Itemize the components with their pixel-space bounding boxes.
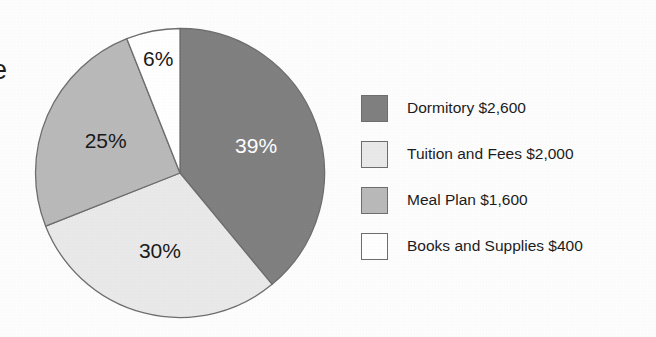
legend-item[interactable]: Books and Supplies $400 xyxy=(361,223,646,269)
legend-item[interactable]: Tuition and Fees $2,000 xyxy=(361,131,646,177)
pie-chart-svg: 39%30%25%6% xyxy=(34,27,326,319)
legend-label-meal-plan: Meal Plan $1,600 xyxy=(407,191,528,209)
pie-chart-figure: e 39%30%25%6% Dormitory $2,600 Tuition a… xyxy=(0,0,656,337)
pie-slice-group xyxy=(36,29,325,318)
cropped-edge-text-fragment: e xyxy=(0,57,7,84)
legend-label-tuition-and-fees: Tuition and Fees $2,000 xyxy=(407,145,574,163)
legend-swatch-books-and-supplies xyxy=(361,233,388,260)
pie-chart: 39%30%25%6% xyxy=(34,27,326,319)
legend-swatch-dormitory xyxy=(361,95,388,122)
legend-item[interactable]: Meal Plan $1,600 xyxy=(361,177,646,223)
legend-item[interactable]: Dormitory $2,600 xyxy=(361,85,646,131)
legend-swatch-tuition-and-fees xyxy=(361,141,388,168)
pie-slice-percent-label: 6% xyxy=(143,47,173,70)
legend-swatch-meal-plan xyxy=(361,187,388,214)
pie-slice-percent-label: 25% xyxy=(85,129,127,152)
pie-slice-percent-label: 39% xyxy=(235,134,277,157)
pie-slice-percent-label: 30% xyxy=(139,239,181,262)
legend-label-dormitory: Dormitory $2,600 xyxy=(407,99,526,117)
legend-label-books-and-supplies: Books and Supplies $400 xyxy=(407,237,583,255)
chart-legend: Dormitory $2,600 Tuition and Fees $2,000… xyxy=(361,85,646,269)
